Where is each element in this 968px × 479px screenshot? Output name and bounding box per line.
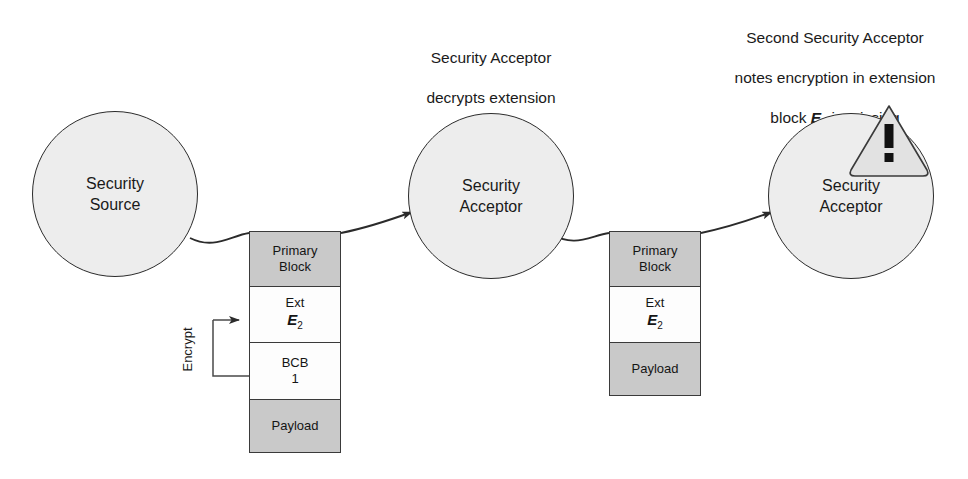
warning-icon [850,106,928,176]
bundle-security-diagram: Security Acceptor decrypts extension blo… [0,0,968,479]
warning-layer [0,0,968,479]
